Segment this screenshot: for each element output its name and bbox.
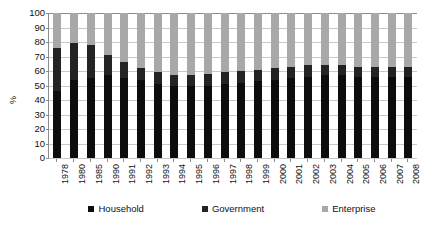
stacked-bar-chart: % 1009080706050403020100 197819801985199…	[0, 0, 426, 227]
bar-segment-household	[187, 86, 195, 159]
bar-segment-household	[221, 84, 229, 158]
y-tick-label: 60	[34, 66, 45, 76]
bar-segment-government	[338, 65, 346, 75]
x-tick: 1996	[203, 159, 211, 203]
bar-segment-enterprise	[321, 13, 329, 65]
x-tick: 1992	[136, 159, 144, 203]
bar-segment-government	[104, 55, 112, 75]
bar-segment-government	[321, 65, 329, 75]
x-tick: 1991	[119, 159, 127, 203]
bar-column[interactable]	[70, 13, 78, 158]
y-tick-label: 20	[34, 124, 45, 134]
bar-segment-government	[187, 75, 195, 85]
bar-segment-enterprise	[404, 13, 412, 67]
bar-segment-government	[120, 62, 128, 78]
bar-segment-enterprise	[221, 13, 229, 72]
bar-segment-government	[404, 67, 412, 77]
bar-segment-enterprise	[53, 13, 61, 48]
x-tick-mark	[274, 159, 275, 162]
bar-segment-government	[287, 67, 295, 79]
bar-column[interactable]	[87, 13, 95, 158]
bar-column[interactable]	[287, 13, 295, 158]
x-tick-mark	[341, 159, 342, 162]
bar-column[interactable]	[104, 13, 112, 158]
x-tick-mark	[123, 159, 124, 162]
bar-segment-government	[221, 72, 229, 84]
bar-segment-enterprise	[137, 13, 145, 68]
y-tick-label: 100	[29, 8, 45, 18]
bar-column[interactable]	[120, 13, 128, 158]
bar-segment-household	[87, 78, 95, 158]
legend-item-household[interactable]: Household	[88, 203, 143, 214]
x-tick: 2001	[286, 159, 294, 203]
x-tick: 1997	[220, 159, 228, 203]
bar-column[interactable]	[371, 13, 379, 158]
bar-segment-government	[271, 68, 279, 80]
y-tick-label: 50	[34, 81, 45, 91]
bar-column[interactable]	[404, 13, 412, 158]
bar-segment-enterprise	[354, 13, 362, 67]
bar-segment-government	[87, 45, 95, 78]
bar-column[interactable]	[271, 13, 279, 158]
bar-segment-government	[354, 67, 362, 77]
x-tick-mark	[190, 159, 191, 162]
bar-column[interactable]	[321, 13, 329, 158]
bar-segment-household	[70, 80, 78, 158]
x-tick-mark	[173, 159, 174, 162]
bar-column[interactable]	[254, 13, 262, 158]
legend-swatch-icon	[202, 206, 208, 212]
bar-column[interactable]	[53, 13, 61, 158]
bar-column[interactable]	[354, 13, 362, 158]
bar-segment-government	[254, 70, 262, 82]
bar-column[interactable]	[237, 13, 245, 158]
bar-segment-household	[237, 83, 245, 158]
x-tick: 2008	[403, 159, 411, 203]
y-tick-label: 30	[34, 110, 45, 120]
bar-segment-government	[70, 43, 78, 79]
bar-column[interactable]	[137, 13, 145, 158]
legend-item-government[interactable]: Government	[202, 203, 264, 214]
bar-segment-enterprise	[187, 13, 195, 75]
y-tick-label: 40	[34, 95, 45, 105]
bar-column[interactable]	[338, 13, 346, 158]
x-tick-mark	[407, 159, 408, 162]
bar-segment-enterprise	[338, 13, 346, 65]
bar-segment-household	[304, 77, 312, 158]
x-tick-mark	[307, 159, 308, 162]
bar-segment-government	[204, 74, 212, 86]
bar-segment-government	[371, 67, 379, 77]
x-tick-mark	[56, 159, 57, 162]
x-tick-mark	[157, 159, 158, 162]
legend-item-enterprise[interactable]: Enterprise	[322, 203, 375, 214]
bar-segment-household	[271, 80, 279, 158]
bar-column[interactable]	[187, 13, 195, 158]
bar-segment-household	[404, 77, 412, 158]
x-tick: 2004	[337, 159, 345, 203]
bar-series-container	[49, 13, 417, 158]
legend-label: Government	[212, 203, 264, 214]
bar-column[interactable]	[154, 13, 162, 158]
bar-column[interactable]	[304, 13, 312, 158]
bar-segment-household	[338, 75, 346, 158]
bar-segment-enterprise	[254, 13, 262, 70]
bar-segment-household	[354, 77, 362, 158]
bar-column[interactable]	[204, 13, 212, 158]
x-tick: 1980	[69, 159, 77, 203]
x-tick: 2000	[270, 159, 278, 203]
y-tick-label: 0	[40, 153, 45, 163]
bar-column[interactable]	[221, 13, 229, 158]
bar-segment-household	[53, 91, 61, 158]
legend-label: Household	[98, 203, 143, 214]
bar-segment-household	[287, 78, 295, 158]
bar-segment-household	[254, 81, 262, 158]
bar-column[interactable]	[170, 13, 178, 158]
bar-column[interactable]	[388, 13, 396, 158]
bar-segment-household	[154, 84, 162, 158]
x-tick-mark	[140, 159, 141, 162]
x-tick-mark	[290, 159, 291, 162]
bar-segment-enterprise	[120, 13, 128, 62]
y-axis-title: %	[8, 96, 18, 104]
chart-legend: HouseholdGovernmentEnterprise	[48, 203, 416, 214]
x-tick-mark	[374, 159, 375, 162]
x-tick: 1990	[103, 159, 111, 203]
